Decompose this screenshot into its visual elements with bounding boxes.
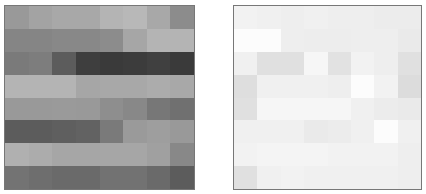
heatmap-cell [170,143,194,166]
heatmap-cell [351,75,374,98]
heatmap-cell [234,120,257,143]
heatmap-cell [234,6,257,29]
heatmap-cell [5,98,29,121]
heatmap-cell [5,143,29,166]
heatmap-cell [351,143,374,166]
heatmap-cell [304,98,327,121]
heatmap-cell [374,6,397,29]
heatmap-cell [170,52,194,75]
heatmap-cell [234,29,257,52]
heatmap-cell [100,143,124,166]
heatmap-cell [374,166,397,189]
heatmap-cell [304,29,327,52]
heatmap-cell [147,29,171,52]
heatmap-cell [52,6,76,29]
heatmap-cell [147,120,171,143]
heatmap-cell [29,98,53,121]
heatmap-cell [76,98,100,121]
heatmap-cell [328,120,351,143]
heatmap-cell [328,6,351,29]
heatmap-cell [52,120,76,143]
heatmap-cell [328,29,351,52]
heatmap-cell [328,143,351,166]
heatmap-cell [123,75,147,98]
heatmap-cell [281,6,304,29]
heatmap-cell [351,52,374,75]
heatmap-cell [147,75,171,98]
heatmap-cell [398,75,421,98]
heatmap-cell [147,98,171,121]
heatmap-cell [100,6,124,29]
heatmap-cell [374,98,397,121]
heatmap-right [233,5,422,190]
heatmap-cell [234,75,257,98]
heatmap-cell [123,6,147,29]
heatmap-cell [123,120,147,143]
heatmap-cell [374,52,397,75]
heatmap-cell [234,98,257,121]
heatmap-cell [257,166,280,189]
heatmap-cell [304,143,327,166]
heatmap-cell [234,143,257,166]
heatmap-cell [328,98,351,121]
heatmap-cell [123,29,147,52]
heatmap-cell [304,6,327,29]
heatmap-cell [257,143,280,166]
heatmap-cell [5,166,29,189]
heatmap-cell [100,29,124,52]
heatmap-cell [304,75,327,98]
heatmap-cell [147,143,171,166]
heatmap-cell [328,52,351,75]
heatmap-cell [147,52,171,75]
heatmap-cell [123,98,147,121]
heatmap-cell [234,166,257,189]
heatmap-cell [398,143,421,166]
heatmap-cell [234,52,257,75]
heatmap-cell [281,166,304,189]
heatmap-cell [328,166,351,189]
heatmap-cell [304,166,327,189]
heatmap-cell [170,29,194,52]
heatmap-cell [328,75,351,98]
heatmap-cell [351,6,374,29]
heatmap-cell [52,143,76,166]
heatmap-cell [29,6,53,29]
heatmap-cell [281,120,304,143]
heatmap-cell [170,166,194,189]
heatmap-cell [170,98,194,121]
heatmap-cell [257,6,280,29]
heatmap-cell [5,29,29,52]
heatmap-cell [281,75,304,98]
heatmap-cell [5,75,29,98]
heatmap-cell [29,75,53,98]
heatmap-cell [29,166,53,189]
heatmap-cell [351,120,374,143]
heatmap-cell [100,166,124,189]
heatmap-cell [257,75,280,98]
heatmap-cell [29,29,53,52]
heatmap-cell [76,52,100,75]
heatmap-cell [76,143,100,166]
heatmap-cell [29,120,53,143]
heatmap-cell [29,52,53,75]
heatmap-left [4,5,195,190]
heatmap-cell [100,52,124,75]
heatmap-cell [374,143,397,166]
heatmap-cell [374,75,397,98]
heatmap-cell [147,166,171,189]
heatmap-cell [257,120,280,143]
heatmap-cell [52,166,76,189]
heatmap-cell [398,98,421,121]
heatmap-cell [257,29,280,52]
heatmap-cell [281,29,304,52]
heatmap-cell [100,75,124,98]
heatmap-cell [76,29,100,52]
heatmap-cell [100,120,124,143]
heatmap-cell [76,6,100,29]
heatmap-cell [304,52,327,75]
heatmap-cell [398,29,421,52]
heatmap-cell [304,120,327,143]
heatmap-cell [374,29,397,52]
heatmap-cell [29,143,53,166]
heatmap-cell [123,143,147,166]
